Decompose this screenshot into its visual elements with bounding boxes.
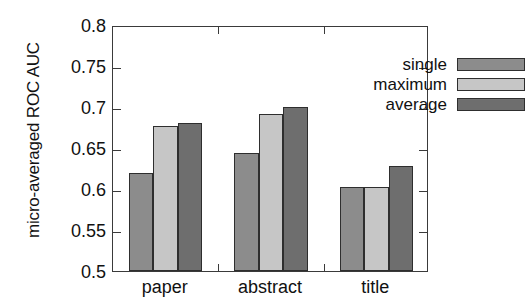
y-tick-label-0.55: 0.55: [0, 222, 106, 240]
legend-item-single: single: [309, 55, 525, 74]
legend-label-maximum: maximum: [373, 76, 447, 93]
bar-abstract-single: [234, 153, 259, 271]
x-tick-label-abstract: abstract: [217, 276, 322, 298]
y-axis-tick-labels: 0.80.750.70.650.60.550.5: [0, 0, 106, 304]
bar-abstract-maximum: [259, 114, 284, 271]
plot-area: singlemaximumaverage: [112, 26, 428, 272]
x-axis-tick-labels: paperabstracttitle: [112, 276, 428, 302]
legend-item-average: average: [309, 95, 525, 114]
x-tick-top-1: [218, 27, 219, 34]
legend-label-average: average: [386, 96, 447, 113]
legend: singlemaximumaverage: [309, 55, 525, 115]
y-tick-label-0.7: 0.7: [0, 99, 106, 117]
bar-abstract-average: [283, 107, 308, 271]
y-tick-right-0.6: [419, 191, 427, 192]
y-tick-label-0.5: 0.5: [0, 263, 106, 281]
y-tick-0.55: [113, 232, 121, 233]
y-tick-label-0.8: 0.8: [0, 17, 106, 35]
x-tick-label-title: title: [323, 276, 428, 298]
bar-title-single: [340, 187, 365, 271]
legend-swatch-single: [457, 58, 525, 71]
y-tick-label-0.6: 0.6: [0, 181, 106, 199]
legend-item-maximum: maximum: [309, 75, 525, 94]
y-tick-right-0.65: [419, 150, 427, 151]
y-tick-0.75: [113, 68, 121, 69]
y-tick-label-0.75: 0.75: [0, 58, 106, 76]
legend-swatch-maximum: [457, 78, 525, 91]
legend-label-single: single: [403, 56, 447, 73]
bar-title-maximum: [364, 187, 389, 271]
y-tick-0.7: [113, 109, 121, 110]
y-tick-right-0.55: [419, 232, 427, 233]
y-tick-label-0.65: 0.65: [0, 140, 106, 158]
bar-paper-single: [129, 173, 154, 271]
y-tick-0.6: [113, 191, 121, 192]
bar-title-average: [389, 166, 414, 271]
x-tick-top-2: [324, 27, 325, 34]
x-tick-bottom-2: [324, 264, 325, 271]
x-tick-bottom-1: [218, 264, 219, 271]
bar-paper-average: [178, 123, 203, 271]
bar-paper-maximum: [153, 126, 178, 271]
y-tick-0.65: [113, 150, 121, 151]
x-tick-label-paper: paper: [112, 276, 217, 298]
legend-swatch-average: [457, 98, 525, 111]
